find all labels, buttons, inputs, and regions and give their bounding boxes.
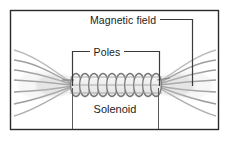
poles-label: Poles (94, 46, 121, 58)
solenoid-label: Solenoid (94, 103, 137, 115)
magnetic-field-label: Magnetic field (90, 14, 156, 26)
solenoid-coil (62, 74, 170, 97)
diagram-canvas: Magnetic field Poles Solenoid (0, 0, 230, 141)
solenoid-field-figure: Magnetic field Poles Solenoid (0, 0, 230, 141)
